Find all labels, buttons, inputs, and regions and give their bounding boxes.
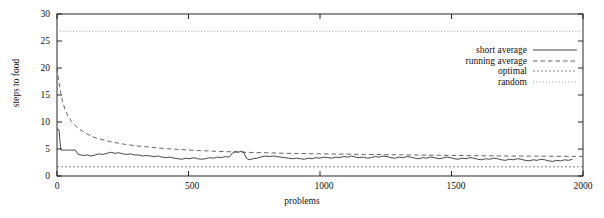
plot-area: [0, 0, 604, 218]
legend-label-optimal: optimal: [498, 66, 532, 77]
series-short-average-line: [57, 129, 572, 161]
legend-swatch-dashed: [532, 56, 578, 66]
legend-entry-optimal: optimal: [406, 66, 578, 77]
legend-swatch-solid: [532, 45, 578, 55]
legend-entry-running-average: running average: [406, 56, 578, 67]
legend-entry-random: random: [406, 77, 578, 88]
legend-label-short-average: short average: [476, 45, 532, 56]
legend-swatch-dotted: [532, 66, 578, 76]
legend-entry-short-average: short average: [406, 45, 578, 56]
plot-frame: [57, 14, 583, 176]
axis-ticks: [57, 14, 583, 176]
chart-figure: steps to food problems 30 25 20 15 10 5 …: [0, 0, 604, 218]
legend-label-running-average: running average: [466, 56, 532, 67]
legend-swatch-fine-dotted: [532, 77, 578, 87]
legend-label-random: random: [498, 77, 532, 88]
legend: short average running average optimal ra…: [406, 45, 578, 87]
